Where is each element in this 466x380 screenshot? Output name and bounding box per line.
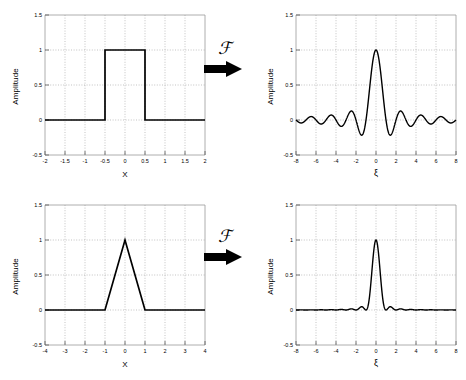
ytick-sinc2-3: 1 xyxy=(271,237,293,243)
xtick-sinc2-0: -8 xyxy=(294,348,299,354)
xtick-sinc-0: -8 xyxy=(294,158,299,164)
xtick-sinc2-3: -2 xyxy=(354,348,359,354)
xtick-sinc-7: 6 xyxy=(434,158,437,164)
axis-label-x-rect: X xyxy=(105,170,145,179)
xtick-rect-8: 2 xyxy=(203,158,206,164)
ytick-rect-0: -0.5 xyxy=(20,152,42,158)
panel-sinc-squared-function: Amplitude xyxy=(251,190,466,380)
xtick-sinc-4: 0 xyxy=(374,158,377,164)
fourier-operator-icon: ℱ xyxy=(200,40,248,57)
ytick-rect-4: 1.5 xyxy=(20,12,42,18)
ytick-triangle-0: -0.5 xyxy=(20,342,42,348)
xtick-rect-2: -1 xyxy=(83,158,88,164)
axis-label-y-rect: Amplitude xyxy=(11,57,20,117)
ytick-rect-2: 0.5 xyxy=(20,82,42,88)
xtick-rect-1: -1.5 xyxy=(60,158,69,164)
operator-top: ℱ xyxy=(200,40,248,78)
xtick-sinc-8: 8 xyxy=(454,158,457,164)
xtick-rect-0: -2 xyxy=(43,158,48,164)
xtick-triangle-2: -2 xyxy=(83,348,88,354)
right-arrow-icon xyxy=(200,60,248,78)
xtick-sinc2-2: -4 xyxy=(334,348,339,354)
ytick-sinc-2: 0.5 xyxy=(271,82,293,88)
ytick-triangle-1: 0 xyxy=(20,307,42,313)
xtick-sinc2-5: 2 xyxy=(394,348,397,354)
ytick-triangle-3: 1 xyxy=(20,237,42,243)
ytick-sinc-3: 1 xyxy=(271,47,293,53)
axis-label-x-sinc2: ξ xyxy=(356,358,396,368)
ytick-sinc2-4: 1.5 xyxy=(271,202,293,208)
ytick-triangle-2: 0.5 xyxy=(20,272,42,278)
panel-sinc-function: Amplitude xyxy=(251,0,466,190)
ytick-sinc2-0: -0.5 xyxy=(271,342,293,348)
operator-bottom: ℱ xyxy=(200,228,248,266)
panel-rect-function: Amplitude xyxy=(0,0,215,190)
xtick-triangle-0: -4 xyxy=(43,348,48,354)
axis-label-x-sinc: ξ xyxy=(356,168,396,178)
grid-lines-rect xyxy=(45,15,205,155)
xtick-rect-6: 1 xyxy=(163,158,166,164)
ytick-sinc-0: -0.5 xyxy=(271,152,293,158)
xtick-triangle-1: -3 xyxy=(63,348,68,354)
xtick-triangle-3: -1 xyxy=(103,348,108,354)
xtick-triangle-7: 3 xyxy=(183,348,186,354)
ytick-triangle-4: 1.5 xyxy=(20,202,42,208)
xtick-triangle-6: 2 xyxy=(163,348,166,354)
ytick-sinc-4: 1.5 xyxy=(271,12,293,18)
ytick-sinc2-1: 0 xyxy=(271,307,293,313)
xtick-rect-5: 0.5 xyxy=(141,158,149,164)
xtick-rect-7: 1.5 xyxy=(181,158,189,164)
grid-lines-sinc2 xyxy=(296,205,456,345)
xtick-rect-4: 0 xyxy=(123,158,126,164)
fourier-operator-icon: ℱ xyxy=(200,228,248,245)
xtick-sinc2-4: 0 xyxy=(374,348,377,354)
xtick-triangle-5: 1 xyxy=(143,348,146,354)
xtick-sinc2-1: -6 xyxy=(314,348,319,354)
xtick-sinc-5: 2 xyxy=(394,158,397,164)
axis-label-x-triangle: X xyxy=(105,360,145,369)
xtick-sinc-6: 4 xyxy=(414,158,417,164)
xtick-sinc-2: -4 xyxy=(334,158,339,164)
xtick-sinc2-6: 4 xyxy=(414,348,417,354)
ytick-rect-1: 0 xyxy=(20,117,42,123)
right-arrow-icon xyxy=(200,248,248,266)
xtick-sinc-3: -2 xyxy=(354,158,359,164)
xtick-triangle-4: 0 xyxy=(123,348,126,354)
fourier-transform-figure: Amplitude xyxy=(0,0,466,380)
ytick-rect-3: 1 xyxy=(20,47,42,53)
panel-triangle-function: Amplitude xyxy=(0,190,215,380)
xtick-sinc2-7: 6 xyxy=(434,348,437,354)
xtick-sinc-1: -6 xyxy=(314,158,319,164)
axis-label-y-triangle: Amplitude xyxy=(11,247,20,307)
xtick-rect-3: -0.5 xyxy=(100,158,109,164)
xtick-triangle-8: 4 xyxy=(203,348,206,354)
grid-lines-sinc xyxy=(296,15,456,155)
ytick-sinc-1: 0 xyxy=(271,117,293,123)
xtick-sinc2-8: 8 xyxy=(454,348,457,354)
grid-lines-triangle xyxy=(45,205,205,345)
ytick-sinc2-2: 0.5 xyxy=(271,272,293,278)
